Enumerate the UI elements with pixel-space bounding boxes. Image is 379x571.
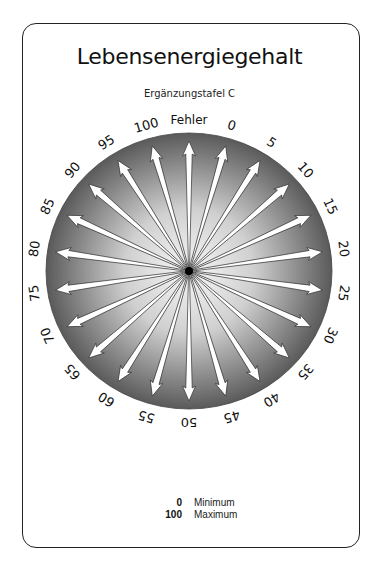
legend-label: Minimum <box>194 497 235 509</box>
legend-label: Maximum <box>194 509 237 521</box>
dial-label: 85 <box>37 196 58 217</box>
dial-label: 90 <box>61 159 83 181</box>
dial-label: 20 <box>335 239 352 258</box>
dial-label: 25 <box>335 284 352 303</box>
dial-label: 55 <box>136 407 156 426</box>
dial-label: Fehler <box>171 113 208 127</box>
dial-label: 60 <box>95 389 117 411</box>
dial-label: 0 <box>226 117 238 134</box>
dial-label: 30 <box>320 325 341 346</box>
dial-label: 70 <box>37 325 58 346</box>
dial-label: 80 <box>26 239 43 258</box>
legend-value: 100 <box>0 509 194 521</box>
dial-label: 35 <box>295 361 317 383</box>
dial-label: 65 <box>61 361 83 383</box>
dial-label: 15 <box>320 196 341 217</box>
dial-label: 45 <box>222 407 242 426</box>
legend-row-minimum: 0 Minimum <box>0 497 379 509</box>
radial-dial: Fehler0510152025303540455055606570758085… <box>0 0 379 571</box>
legend: 0 Minimum 100 Maximum <box>0 497 379 521</box>
dial-label: 40 <box>261 389 283 411</box>
dial-label: 5 <box>264 134 279 151</box>
dial-label: 95 <box>95 132 117 154</box>
dial-center-dot <box>185 267 193 275</box>
legend-value: 0 <box>0 497 194 509</box>
dial-label: 100 <box>132 115 160 136</box>
dial-label: 10 <box>295 159 317 181</box>
dial-label: 50 <box>181 415 198 430</box>
dial-label: 75 <box>26 284 43 303</box>
legend-row-maximum: 100 Maximum <box>0 509 379 521</box>
